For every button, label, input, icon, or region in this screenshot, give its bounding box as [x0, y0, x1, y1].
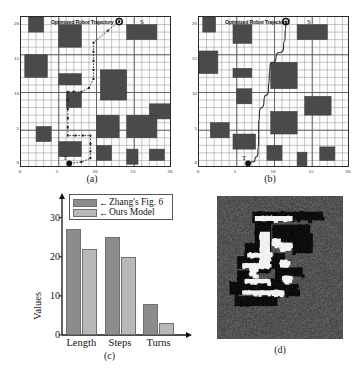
panel-a-caption: (a)	[6, 173, 178, 184]
map-a-ytick-15: 15	[6, 56, 19, 61]
map-a-ytick-0: 0	[6, 160, 19, 165]
panel-c-caption: (c)	[22, 350, 197, 361]
legend-row-zhang: ← Zhang's Fig. 6	[73, 198, 169, 207]
chart-category-steps: Steps	[98, 337, 142, 348]
legend-label-zhang: Zhang's Fig. 6	[109, 198, 163, 207]
bar-steps-zhang	[105, 237, 120, 335]
map-b-ytick-0: 0	[184, 160, 197, 165]
panel-d-caption: (d)	[213, 344, 347, 355]
chart-ytick-30: 30	[40, 212, 60, 223]
chart-ytick-10: 10	[40, 290, 60, 301]
panel-d: (d)	[213, 196, 347, 368]
bar-turns-zhang	[143, 304, 158, 335]
legend-row-ours: ← Ours Model	[73, 208, 169, 217]
map-a-target-label: T	[63, 154, 67, 162]
panel-b-caption: (b)	[184, 173, 356, 184]
occupancy-map-image	[217, 196, 343, 339]
map-b-target-label: T	[242, 154, 246, 162]
map-a-ytick-20: 20	[6, 21, 19, 26]
panel-c: Values 30 20 10 0 Length Steps Turns ← Z…	[28, 192, 203, 370]
legend-swatch-zhang	[73, 199, 97, 207]
legend-swatch-ours	[73, 209, 97, 217]
map-b-svg	[199, 17, 349, 167]
map-a-ytick-5: 5	[6, 126, 19, 131]
map-b-plot-area[interactable]	[198, 16, 349, 167]
map-b-trajectory-label: Optimized Robot Trajectory	[225, 19, 288, 25]
chart-ytick-20: 20	[40, 251, 60, 262]
map-b-start-label: S	[307, 18, 311, 26]
map-b-ytick-15: 15	[184, 56, 197, 61]
panel-b: 20 15 10 5 0 Optimized Robot Trajectory …	[184, 8, 356, 183]
chart-legend: ← Zhang's Fig. 6 ← Ours Model	[69, 194, 173, 220]
map-a-plot-area[interactable]	[20, 16, 171, 167]
map-a-svg	[21, 17, 171, 167]
chart-plot-area	[62, 206, 178, 335]
panel-a: 20 15 10 5 0 Optimized Robot Trajectory …	[6, 8, 178, 183]
map-a-start-label: S	[140, 18, 144, 26]
bar-turns-ours	[159, 323, 174, 335]
map-a-trajectory-label: Optimized Robot Trajectory	[51, 19, 114, 25]
legend-arrow-icon: ←	[99, 199, 108, 207]
map-b-ytick-20: 20	[184, 21, 197, 26]
legend-label-ours: Ours Model	[109, 208, 155, 217]
legend-arrow-icon-2: ←	[99, 209, 108, 217]
map-b-ytick-5: 5	[184, 126, 197, 131]
map-a-ytick-10: 10	[6, 91, 19, 96]
figure-root: 20 15 10 5 0 Optimized Robot Trajectory …	[0, 0, 360, 373]
bar-length-zhang	[66, 229, 81, 335]
map-b-ytick-10: 10	[184, 91, 197, 96]
chart-ytick-0: 0	[40, 329, 60, 340]
chart-category-length: Length	[59, 337, 103, 348]
chart-category-turns: Turns	[137, 337, 181, 348]
bar-steps-ours	[121, 257, 136, 335]
bar-length-ours	[82, 249, 97, 335]
